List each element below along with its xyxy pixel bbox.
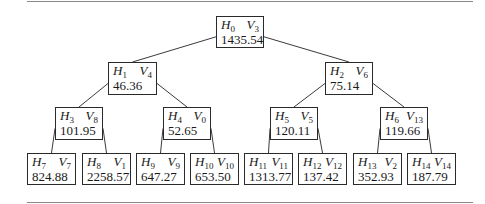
tree-node-h11: H11 V11 1313.77	[244, 153, 293, 185]
edge-n0-n1	[133, 37, 217, 62]
edge-n6-n14	[428, 128, 432, 153]
tree-node-h2: H2 V6 75.14	[325, 62, 373, 95]
v-label: V10	[217, 155, 234, 168]
node-labels: H5 V5	[275, 109, 317, 122]
v-label: V8	[86, 109, 98, 122]
tree-node-h6: H6 V13 119.66	[380, 107, 428, 140]
edge-n5-n12	[318, 128, 323, 153]
node-labels: H4 V0	[168, 109, 210, 122]
node-value: 46.36	[113, 79, 156, 92]
v-label: V3	[247, 18, 259, 31]
h-label: H0	[221, 18, 235, 31]
node-value: 101.95	[60, 124, 102, 137]
node-labels: H8 V1	[87, 155, 130, 168]
node-labels: H9 V9	[141, 155, 184, 168]
node-labels: H11 V11	[249, 155, 292, 168]
node-labels: H14 V14	[412, 155, 455, 168]
node-value: 1435.54	[221, 33, 263, 46]
h-label: H13	[358, 155, 376, 168]
edge-n2-n6	[373, 83, 404, 107]
h-label: H9	[141, 155, 155, 168]
v-label: V7	[59, 155, 71, 168]
node-value: 352.93	[358, 170, 401, 183]
node-value: 824.88	[32, 170, 75, 183]
v-label: V12	[325, 155, 342, 168]
v-label: V0	[194, 109, 206, 122]
tree-node-h8: H8 V1 2258.57	[82, 153, 131, 185]
h-label: H6	[385, 109, 399, 122]
tree-node-h5: H5 V5 120.11	[270, 107, 318, 140]
h-label: H10	[195, 155, 213, 168]
edge-n1-n3	[79, 83, 108, 107]
h-label: H8	[87, 155, 101, 168]
v-label: V6	[356, 64, 368, 77]
h-label: H5	[275, 109, 289, 122]
tree-node-h3: H3 V8 101.95	[55, 107, 103, 140]
v-label: V11	[271, 155, 288, 168]
edge-n2-n5	[294, 83, 325, 107]
edge-n1-n4	[157, 83, 187, 107]
node-value: 137.42	[303, 170, 346, 183]
node-value: 75.14	[330, 79, 372, 92]
v-label: V4	[140, 64, 152, 77]
node-value: 1313.77	[249, 170, 292, 183]
v-label: V14	[434, 155, 451, 168]
edge-n3-n8	[103, 128, 107, 153]
bottom-rule	[27, 202, 473, 203]
v-label: V2	[385, 155, 397, 168]
node-labels: H7 V7	[32, 155, 75, 168]
node-value: 119.66	[385, 124, 427, 137]
node-labels: H6 V13	[385, 109, 427, 122]
edge-n0-n2	[264, 37, 349, 62]
node-labels: H3 V8	[60, 109, 102, 122]
tree-node-h12: H12 V12 137.42	[298, 153, 347, 185]
node-labels: H0 V3	[221, 18, 263, 31]
node-value: 2258.57	[87, 170, 130, 183]
v-label: V13	[406, 109, 423, 122]
tree-node-h9: H9 V9 647.27	[136, 153, 185, 185]
edge-n4-n10	[211, 128, 215, 153]
node-labels: H2 V6	[330, 64, 372, 77]
tree-node-h10: H10 V10 653.50	[190, 153, 239, 185]
v-label: V1	[114, 155, 126, 168]
node-value: 120.11	[275, 124, 317, 137]
tree-node-h4: H4 V0 52.65	[163, 107, 211, 140]
h-label: H1	[113, 64, 127, 77]
h-label: H11	[249, 155, 267, 168]
h-label: H4	[168, 109, 182, 122]
node-labels: H10 V10	[195, 155, 238, 168]
h-label: H14	[412, 155, 430, 168]
tree-node-h14: H14 V14 187.79	[407, 153, 456, 185]
node-labels: H13 V2	[358, 155, 401, 168]
h-label: H2	[330, 64, 344, 77]
tree-node-h0: H0 V3 1435.54	[216, 16, 264, 48]
tree-node-h7: H7 V7 824.88	[27, 153, 76, 185]
h-label: H7	[32, 155, 46, 168]
tree-node-h13: H13 V2 352.93	[353, 153, 402, 185]
node-labels: H1 V4	[113, 64, 156, 77]
node-labels: H12 V12	[303, 155, 346, 168]
h-label: H12	[303, 155, 321, 168]
v-label: V9	[168, 155, 180, 168]
node-value: 187.79	[412, 170, 455, 183]
node-value: 653.50	[195, 170, 238, 183]
tree-node-h1: H1 V4 46.36	[108, 62, 157, 95]
node-value: 52.65	[168, 124, 210, 137]
node-value: 647.27	[141, 170, 184, 183]
h-label: H3	[60, 109, 74, 122]
v-label: V5	[301, 109, 313, 122]
